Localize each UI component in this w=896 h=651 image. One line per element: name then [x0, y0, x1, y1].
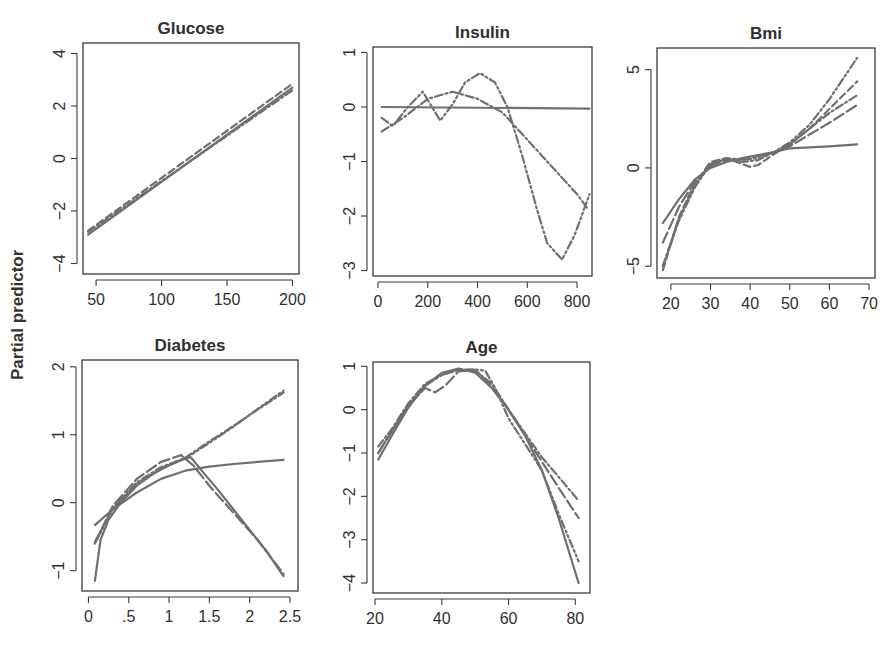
y-tick-label: −5: [625, 257, 642, 275]
x-tick-label: 100: [148, 291, 175, 308]
x-axis: 0.511.522.5: [84, 597, 301, 625]
series-line-fit2: [378, 370, 578, 501]
x-tick-label: .5: [122, 608, 135, 625]
plot-frame: [657, 48, 875, 278]
plot-frame: [373, 362, 590, 593]
x-tick-label: 50: [87, 291, 105, 308]
x-tick-label: 200: [414, 293, 441, 310]
series-group: [88, 84, 292, 235]
x-tick-label: 50: [781, 295, 799, 312]
x-tick-label: 600: [514, 293, 541, 310]
y-tick-label: 1: [50, 430, 67, 439]
x-tick-label: 40: [741, 295, 759, 312]
y-tick-label: −1: [341, 152, 358, 170]
y-tick-label: −3: [341, 530, 358, 548]
panel-insulin: Insulin020040060080010−1−2−3: [341, 23, 592, 310]
x-tick-label: 30: [702, 295, 720, 312]
chart-canvas: Glucose50100150200420−2−4Insulin02004006…: [0, 0, 896, 651]
panel-title: Glucose: [157, 19, 224, 38]
x-tick-label: 150: [214, 291, 241, 308]
plot-frame: [373, 47, 592, 276]
x-tick-label: 80: [566, 610, 584, 627]
y-tick-label: 0: [50, 498, 67, 507]
x-tick-label: 60: [500, 610, 518, 627]
x-tick-label: 20: [662, 295, 680, 312]
figure: Glucose50100150200420−2−4Insulin02004006…: [0, 0, 896, 651]
panel-title: Insulin: [455, 23, 510, 42]
shared-y-axis-label: Partial predictor: [8, 250, 28, 380]
y-axis: 10−1−2−3: [341, 48, 367, 280]
series-group: [95, 391, 284, 581]
series-line-fit3: [378, 370, 578, 518]
y-tick-label: 0: [51, 154, 68, 163]
y-tick-label: 2: [50, 362, 67, 371]
x-tick-label: 60: [821, 295, 839, 312]
series-line-fit1: [378, 369, 578, 584]
x-tick-label: 1: [165, 608, 174, 625]
series-group: [382, 73, 590, 259]
x-tick-label: 70: [860, 295, 878, 312]
series-line-fit2: [663, 105, 857, 243]
series-line-fit3: [95, 455, 284, 574]
x-axis: 50100150200: [87, 280, 306, 308]
panel-bmi: Bmi20304050607050−5: [625, 24, 878, 312]
panel-title: Diabetes: [155, 336, 226, 355]
panel-title: Age: [465, 338, 497, 357]
x-tick-label: 2.5: [279, 608, 301, 625]
panel-diabetes: Diabetes0.511.522.5210−1: [50, 336, 301, 625]
x-axis: 203040506070: [662, 284, 878, 312]
y-tick-label: −2: [51, 202, 68, 220]
y-axis: 420−2−4: [51, 49, 77, 273]
y-tick-label: −4: [341, 574, 358, 592]
x-tick-label: 800: [564, 293, 591, 310]
x-tick-label: 0: [374, 293, 383, 310]
series-line-fit4: [95, 391, 284, 544]
y-tick-label: 0: [625, 163, 642, 172]
series-line-fit1: [382, 107, 590, 109]
y-tick-label: −1: [341, 444, 358, 462]
x-tick-label: 20: [366, 610, 384, 627]
y-tick-label: 4: [51, 49, 68, 58]
y-axis: 210−1: [50, 362, 76, 579]
series-line-fit1: [95, 460, 284, 525]
y-tick-label: 5: [625, 65, 642, 74]
series-line-fit4: [663, 81, 857, 270]
series-line-fit2: [88, 84, 292, 231]
y-axis: 10−1−2−3−4: [341, 362, 367, 592]
series-group: [663, 58, 857, 270]
y-tick-label: −1: [50, 561, 67, 579]
y-tick-label: 0: [341, 102, 358, 111]
panel-glucose: Glucose50100150200420−2−4: [51, 19, 306, 308]
y-axis: 50−5: [625, 65, 651, 275]
series-line-fit3: [663, 95, 857, 266]
series-line-fit3: [88, 90, 292, 232]
y-tick-label: 1: [341, 362, 358, 371]
series-line-fit2: [95, 457, 284, 581]
series-line-fit3: [382, 73, 590, 259]
x-tick-label: 0: [84, 608, 93, 625]
panel-age: Age2040608010−1−2−3−4: [341, 338, 590, 627]
series-line-fit5: [663, 58, 857, 266]
y-tick-label: −3: [341, 261, 358, 279]
panel-title: Bmi: [750, 24, 782, 43]
y-tick-label: −2: [341, 487, 358, 505]
y-tick-label: −2: [341, 207, 358, 225]
x-tick-label: 400: [464, 293, 491, 310]
y-tick-label: 2: [51, 101, 68, 110]
x-tick-label: 2: [245, 608, 254, 625]
series-line-fit5: [95, 393, 284, 542]
x-axis: 20406080: [366, 599, 584, 627]
plot-frame: [82, 360, 298, 591]
x-axis: 0200400600800: [374, 282, 591, 310]
series-group: [378, 369, 578, 584]
y-tick-label: −4: [51, 254, 68, 272]
y-tick-label: 0: [341, 405, 358, 414]
y-tick-label: 1: [341, 48, 358, 57]
plot-frame: [83, 43, 299, 274]
x-tick-label: 1.5: [198, 608, 220, 625]
x-tick-label: 200: [279, 291, 306, 308]
x-tick-label: 40: [433, 610, 451, 627]
